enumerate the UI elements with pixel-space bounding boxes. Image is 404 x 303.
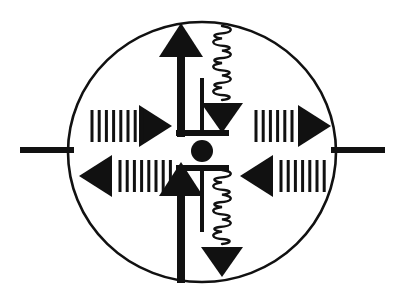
junction-dot — [191, 140, 213, 162]
device-schematic-svg — [0, 0, 404, 303]
figure-root: Carrier transport and recombination diag… — [0, 0, 404, 303]
lower-right-dash-train — [281, 160, 324, 192]
